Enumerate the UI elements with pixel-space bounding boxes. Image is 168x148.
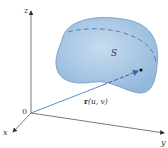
surface-diagram: z x y 0 S r(u, v): [0, 0, 168, 148]
surface-point: [139, 68, 142, 71]
surface-s: [56, 17, 158, 93]
z-axis-label: z: [23, 6, 29, 15]
position-vector-label: r(u, v): [84, 97, 108, 106]
y-axis: [31, 113, 164, 133]
y-axis-label: y: [160, 138, 166, 147]
x-axis-label: x: [3, 128, 8, 137]
origin-label: 0: [22, 107, 27, 116]
surface-label: S: [111, 48, 117, 58]
